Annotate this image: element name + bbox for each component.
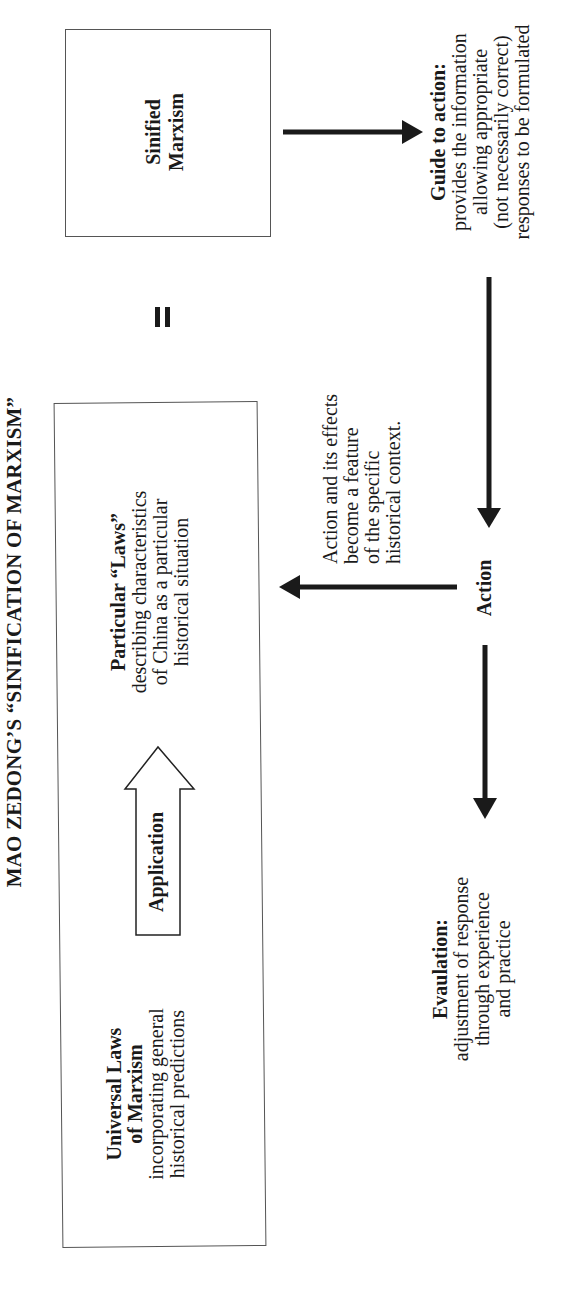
action-node: Action: [473, 552, 496, 624]
effects-line-2: become a feature: [341, 369, 362, 564]
evaluation-heading: Evaulation:: [430, 866, 451, 1072]
guide-body-line-1: provides the information: [449, 6, 470, 258]
equals-icon: [155, 307, 170, 327]
guide-heading: Guide to action:: [428, 6, 449, 258]
effects-line-1: Action and its effects: [320, 369, 341, 564]
guide-body-line-4: responses to be formulated: [512, 6, 533, 258]
diagram-page: MAO ZEDONG’S “SINIFICATION OF MARXISM” U…: [0, 0, 565, 1294]
guide-to-action-node: Guide to action: provides the informatio…: [428, 6, 533, 258]
arrow-guide-to-action-icon: [477, 277, 501, 528]
evaluation-body-line-2: through experience: [472, 866, 493, 1072]
effects-line-3: of the specific: [362, 369, 383, 564]
arrow-action-to-particular-icon: [279, 575, 457, 599]
application-label: Application: [145, 792, 168, 932]
arrow-action-to-evaluation-icon: [473, 645, 497, 819]
evaluation-body-line-1: adjustment of response: [451, 866, 472, 1072]
guide-body-line-2: allowing appropriate: [470, 6, 491, 258]
guide-body-line-3: (not necessarily correct): [491, 6, 512, 258]
evaluation-body-line-3: and practice: [493, 866, 514, 1072]
action-effects-note: Action and its effects become a feature …: [320, 369, 404, 564]
evaluation-node: Evaulation: adjustment of response throu…: [430, 866, 514, 1072]
effects-line-4: historical context.: [383, 369, 404, 564]
arrow-sinified-to-guide-icon: [283, 120, 423, 144]
